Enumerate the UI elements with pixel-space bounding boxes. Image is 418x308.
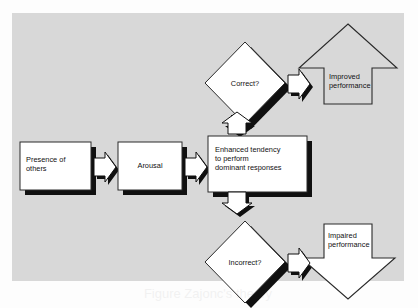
- impaired-performance-label: Impaired performance: [328, 231, 390, 249]
- improved-performance-label: Improved performance: [329, 72, 391, 90]
- presence-box-label: Presence of others: [26, 155, 88, 173]
- figure-root: Presence of others Arousal Enhanced tend…: [0, 0, 418, 308]
- arousal-box-label: Arousal: [120, 161, 180, 170]
- enhanced-box-label: Enhanced tendency to perform dominant re…: [215, 145, 307, 172]
- correct-diamond-label: Correct?: [213, 79, 277, 88]
- incorrect-diamond-label: Incorrect?: [211, 258, 279, 267]
- figure-caption: Figure Zajonc's theory: [12, 286, 404, 306]
